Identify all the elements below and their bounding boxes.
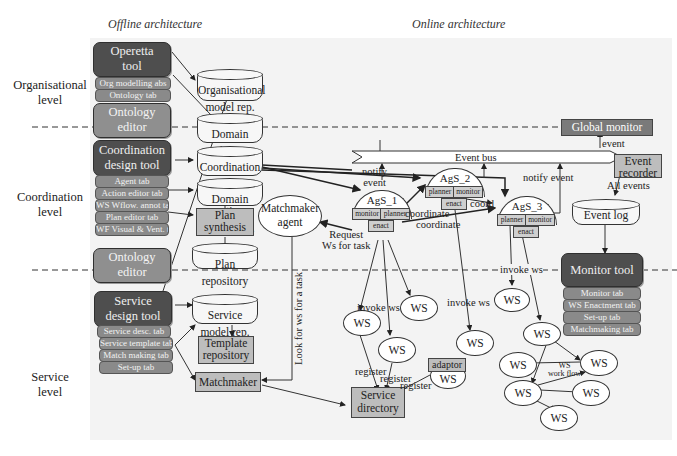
tab-ontology[interactable]: Ontology tab: [95, 89, 171, 102]
monitor-tool[interactable]: Monitor tool: [561, 253, 643, 287]
service-model-repository: Servicemodel rep.: [192, 298, 258, 324]
box-label: Template: [199, 337, 253, 349]
look-for-ws-label: Look for ws for a task: [293, 272, 304, 365]
coordination-design-tool[interactable]: Coordination design tool: [93, 140, 171, 176]
service-design-tool[interactable]: Service design tool: [94, 291, 172, 327]
repo-label: Domain: [198, 123, 262, 140]
ws-node: WS: [504, 380, 542, 406]
agent-planner: planner: [497, 214, 527, 226]
box-label: recorder: [615, 167, 661, 179]
tool-title: Coordination: [94, 143, 170, 158]
ellipse-label: Matchmaker: [259, 201, 321, 215]
operetta-tool[interactable]: Operetta tool: [93, 42, 171, 77]
plan-repository: Planrepository: [192, 247, 258, 269]
label-line: work flow: [548, 370, 581, 378]
register-label-3: register: [400, 380, 432, 391]
request-ws-label: Request Ws for task: [322, 229, 370, 251]
agent-enact: enact: [513, 226, 539, 238]
online-architecture-header: Online architecture: [412, 17, 505, 32]
ws-node: WS: [456, 330, 494, 356]
offline-architecture-header: Offline architecture: [108, 17, 202, 32]
tool-title: design tool: [94, 158, 170, 173]
global-monitor: Global monitor: [561, 119, 653, 136]
event-bus-label: Event bus: [455, 152, 497, 163]
agent-monitor: monitor: [453, 186, 483, 198]
ws-node: WS: [494, 288, 530, 312]
domain-action-model-repository: Domain actionmodel rep.: [197, 182, 263, 206]
service-directory: Service directory: [351, 387, 405, 418]
ws-node: WS: [400, 295, 438, 321]
box-label: repository: [199, 349, 253, 361]
repo-label: Coordination: [198, 156, 262, 173]
label-line: Ws for task: [322, 240, 370, 251]
repo-label: Organisational: [198, 79, 262, 96]
ellipse-label: agent: [259, 215, 321, 229]
all-events-label: All events: [607, 180, 650, 191]
template-repository: Template repository: [198, 336, 254, 364]
ws-node: WS: [540, 405, 578, 431]
ws-node: WS: [378, 337, 416, 363]
level-label-line: Organisational: [8, 78, 92, 93]
level-label-line: level: [8, 205, 92, 220]
agent-planner: planner: [425, 186, 455, 198]
invoke-ws-label-2: invoke ws: [447, 297, 490, 308]
level-label-line: level: [8, 93, 92, 108]
tool-title: Service: [95, 294, 171, 309]
level-label-line: level: [8, 385, 92, 400]
organisational-level-label: Organisational level: [8, 78, 92, 108]
ontology-editor-1[interactable]: Ontology editor: [93, 103, 171, 138]
tab-matchmaking[interactable]: Matchmaking tab: [563, 323, 641, 336]
matchmaker-agent: Matchmaker agent: [258, 195, 322, 237]
ws-node: WS: [580, 350, 618, 376]
invoke-ws-label-1: invoke ws: [357, 302, 400, 313]
repo-label: Event log: [573, 204, 639, 221]
event-log: Event log: [572, 203, 640, 225]
tool-title: Operetta: [94, 44, 170, 59]
coord-label: coord: [470, 198, 494, 209]
tool-title: Ontology: [94, 105, 170, 120]
box-label: Plan: [197, 209, 253, 221]
invoke-ws-label-3: invoke ws: [500, 264, 543, 275]
ws-node: WS: [499, 352, 537, 378]
label-line: event: [362, 177, 387, 188]
service-level-label: Service level: [8, 370, 92, 400]
tool-title: design tool: [95, 309, 171, 324]
agent-enact: enact: [368, 220, 394, 232]
notify-event-label-2: notify event: [523, 172, 573, 183]
repo-label: Service: [193, 304, 257, 321]
box-label: directory: [352, 402, 404, 415]
ws-node: WS: [343, 310, 381, 336]
repo-label: repository: [193, 270, 257, 287]
agent-monitor: monitor: [525, 214, 555, 226]
plan-synthesis: Plan synthesis: [196, 208, 254, 236]
tab-wf-visual-vent[interactable]: WF Visual & Vent. tab: [95, 223, 169, 236]
box-label: Service: [352, 389, 404, 402]
box-label: Event: [615, 155, 661, 167]
level-label-line: Service: [8, 370, 92, 385]
label-line: notify: [362, 166, 387, 177]
event-recorder: Event recorder: [614, 154, 662, 178]
box-label: synthesis: [197, 221, 253, 233]
repo-label: Plan: [193, 253, 257, 270]
label-line: Request: [322, 229, 370, 240]
tool-title: editor: [94, 265, 170, 280]
coordination-model-repository: Coordinationmodel rep.: [197, 150, 263, 176]
domain-ontology-repository: Domainontology rep.: [197, 117, 263, 143]
organisational-model-repository: Organisationalmodel rep.: [197, 73, 263, 101]
coordinate-label-2: coordinate: [416, 219, 460, 230]
tab-set-up[interactable]: Set-up tab: [99, 361, 173, 374]
adaptor: adaptor: [428, 358, 466, 372]
tool-title: tool: [94, 59, 170, 74]
agent-monitor: monitor: [352, 208, 382, 220]
repo-label: model rep.: [198, 96, 262, 113]
event-label: event: [602, 138, 625, 149]
notify-event-label-1: notify event: [362, 166, 387, 188]
matchmaker: Matchmaker: [195, 372, 261, 392]
ws-workflow-label: WS work flow: [548, 362, 581, 378]
ws-node: WS: [572, 380, 610, 406]
coordinate-label-1: coordinate: [405, 208, 449, 219]
tool-title: editor: [94, 120, 170, 135]
ws-node: WS: [523, 322, 561, 346]
level-label-line: Coordination: [8, 190, 92, 205]
ontology-editor-2[interactable]: Ontology editor: [93, 248, 171, 283]
